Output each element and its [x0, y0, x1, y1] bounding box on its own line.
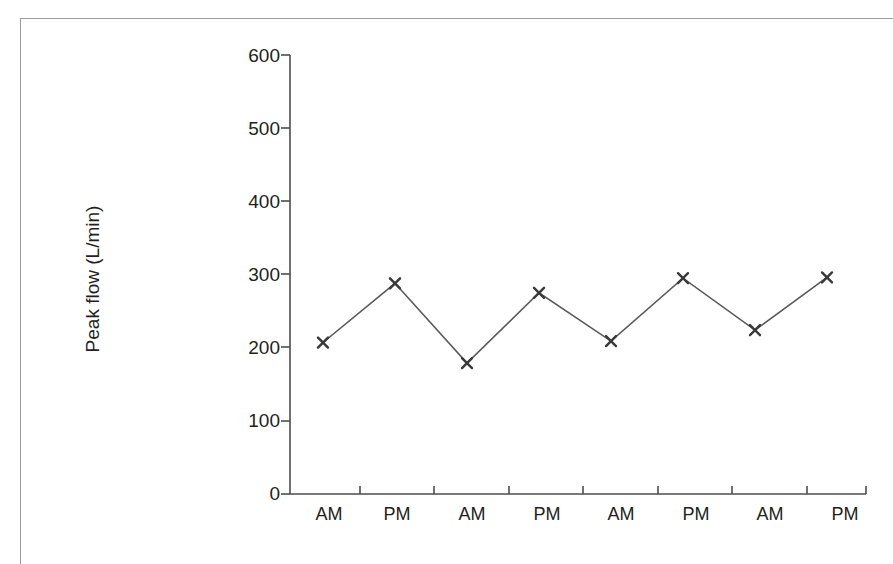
y-axis-title: Peak flow (L/min)	[82, 109, 104, 449]
x-tick-label-2: PM	[362, 505, 432, 523]
data-point-markers	[318, 272, 832, 368]
y-axis-ticks	[281, 55, 290, 494]
x-tick-label-5: AM	[586, 505, 656, 523]
plot-area	[0, 0, 893, 564]
data-point-marker	[534, 288, 544, 298]
data-point-marker	[390, 278, 400, 288]
x-tick-label-8: PM	[810, 505, 880, 523]
y-tick-label-200: 200	[224, 338, 280, 357]
y-tick-label-300: 300	[224, 265, 280, 284]
data-point-marker	[318, 338, 328, 348]
x-tick-label-7: AM	[735, 505, 805, 523]
y-tick-label-500: 500	[224, 119, 280, 138]
data-series-line	[323, 277, 827, 363]
x-tick-label-4: PM	[512, 505, 582, 523]
data-point-marker	[678, 273, 688, 283]
cut-off-caption: ​	[38, 556, 368, 564]
x-tick-label-3: AM	[437, 505, 507, 523]
data-point-marker	[606, 336, 616, 346]
x-tick-label-1: AM	[294, 505, 364, 523]
y-tick-label-0: 0	[224, 484, 280, 503]
x-tick-label-6: PM	[661, 505, 731, 523]
y-tick-label-400: 400	[224, 192, 280, 211]
figure-page: Peak flow (L/min) 600 500 400 300 200 10…	[0, 0, 893, 564]
x-axis-ticks	[360, 486, 866, 494]
peak-flow-line-chart: Peak flow (L/min) 600 500 400 300 200 10…	[0, 0, 893, 564]
y-tick-label-100: 100	[224, 411, 280, 430]
data-point-marker	[822, 272, 832, 282]
data-point-marker	[750, 325, 760, 335]
y-tick-label-600: 600	[224, 46, 280, 65]
data-point-marker	[462, 358, 472, 368]
